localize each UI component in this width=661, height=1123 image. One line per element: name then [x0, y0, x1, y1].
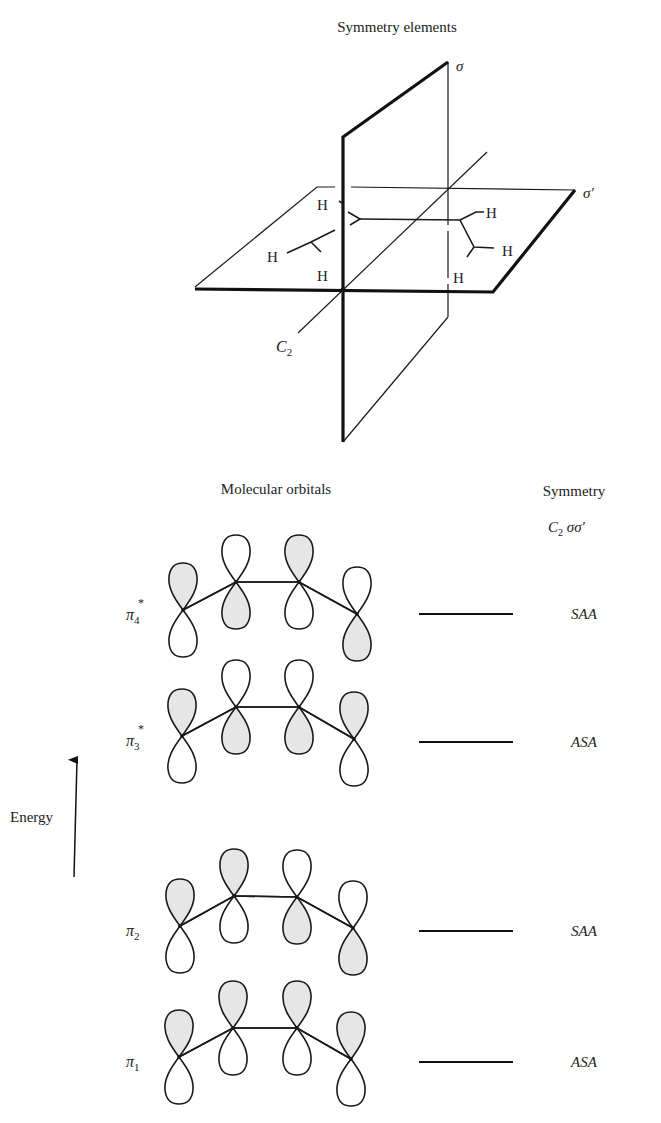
molecular-orbitals-figure: Molecular orbitals Symmetry C2 σσ′ Energ…	[10, 481, 606, 1106]
p-orbital-upper-lobe	[222, 535, 250, 582]
p-orbital-lower-lobe	[339, 928, 367, 975]
p-orbital-upper-lobe	[339, 881, 367, 928]
orbital-label: π2	[126, 922, 140, 942]
symmetry-label: ASA	[570, 1054, 598, 1070]
p-orbital-upper-lobe	[166, 879, 194, 926]
p-orbital-lower-lobe	[222, 582, 250, 629]
p-orbital-upper-lobe	[169, 563, 197, 610]
p-orbital-lower-lobe	[222, 707, 250, 754]
p-orbital-lower-lobe	[340, 739, 368, 786]
orbitals-layer: π4*SAAπ3*ASAπ2SAAπ1ASA	[126, 535, 598, 1106]
symmetry-label: ASA	[570, 734, 598, 750]
p-orbital-upper-lobe	[285, 660, 313, 707]
p-orbital-upper-lobe	[219, 981, 247, 1028]
carbon-backbone	[183, 582, 357, 614]
sigma-plane-front-edge	[343, 62, 448, 442]
origin-point	[341, 288, 346, 293]
p-orbital-upper-lobe	[340, 692, 368, 739]
p-orbital-lower-lobe	[285, 582, 313, 629]
hydrogen-label: H	[502, 243, 513, 259]
symmetry-label: SAA	[571, 606, 598, 622]
p-orbital-upper-lobe	[168, 689, 196, 736]
orbital-row: π1ASA	[126, 981, 598, 1106]
orbital-antibonding-star: *	[138, 596, 144, 610]
p-orbital-upper-lobe	[285, 535, 313, 582]
p-orbital-upper-lobe	[222, 660, 250, 707]
orbital-row: π4*SAA	[126, 535, 598, 661]
orbital-antibonding-star: *	[138, 722, 144, 736]
c2-axis-line	[298, 152, 487, 333]
hydrogen-label: H	[453, 270, 464, 286]
p-orbital-lower-lobe	[285, 707, 313, 754]
symmetry-elements-figure: Symmetry elements H H	[195, 19, 594, 442]
p-orbital-upper-lobe	[343, 567, 371, 614]
sigma-prime-plane-back-edges	[195, 187, 335, 287]
p-orbital-lower-lobe	[219, 1028, 247, 1075]
orbital-row: π3*ASA	[126, 660, 598, 786]
symmetry-column-subheader: C2 σσ′	[548, 519, 586, 538]
sigma-plane-bottom-edge	[343, 317, 448, 442]
c2-axis-label: C2	[276, 338, 292, 358]
p-orbital-lower-lobe	[168, 736, 196, 783]
p-orbital-lower-lobe	[220, 896, 248, 943]
orbital-label: π1	[126, 1053, 140, 1073]
symmetry-column-header: Symmetry	[543, 483, 606, 499]
p-orbital-lower-lobe	[166, 926, 194, 973]
sigma-prime-plane-label: σ′	[583, 185, 594, 201]
p-orbital-upper-lobe	[283, 981, 311, 1028]
p-orbital-lower-lobe	[165, 1057, 193, 1104]
p-orbital-lower-lobe	[169, 610, 197, 657]
p-orbital-lower-lobe	[337, 1059, 365, 1106]
sigma-plane-label: σ	[456, 58, 464, 74]
p-orbital-upper-lobe	[220, 849, 248, 896]
symmetry-elements-title: Symmetry elements	[337, 19, 457, 35]
p-orbital-upper-lobe	[165, 1010, 193, 1057]
p-orbital-lower-lobe	[283, 1028, 311, 1075]
hydrogen-label: H	[317, 197, 328, 213]
butadiene-molecule: H H H H H H	[267, 197, 513, 286]
orbital-row: π2SAA	[126, 849, 598, 975]
p-orbital-lower-lobe	[283, 897, 311, 944]
energy-arrow	[74, 760, 77, 877]
sigma-prime-plane-back-edge-right	[351, 187, 575, 190]
symmetry-label: SAA	[571, 923, 598, 939]
p-orbital-upper-lobe	[337, 1012, 365, 1059]
hydrogen-label: H	[486, 205, 497, 221]
hydrogen-label: H	[267, 249, 278, 265]
molecular-orbitals-title: Molecular orbitals	[221, 481, 332, 497]
energy-axis-label: Energy	[10, 809, 54, 825]
p-orbital-lower-lobe	[343, 614, 371, 661]
hydrogen-label: H	[317, 268, 328, 284]
p-orbital-upper-lobe	[283, 850, 311, 897]
